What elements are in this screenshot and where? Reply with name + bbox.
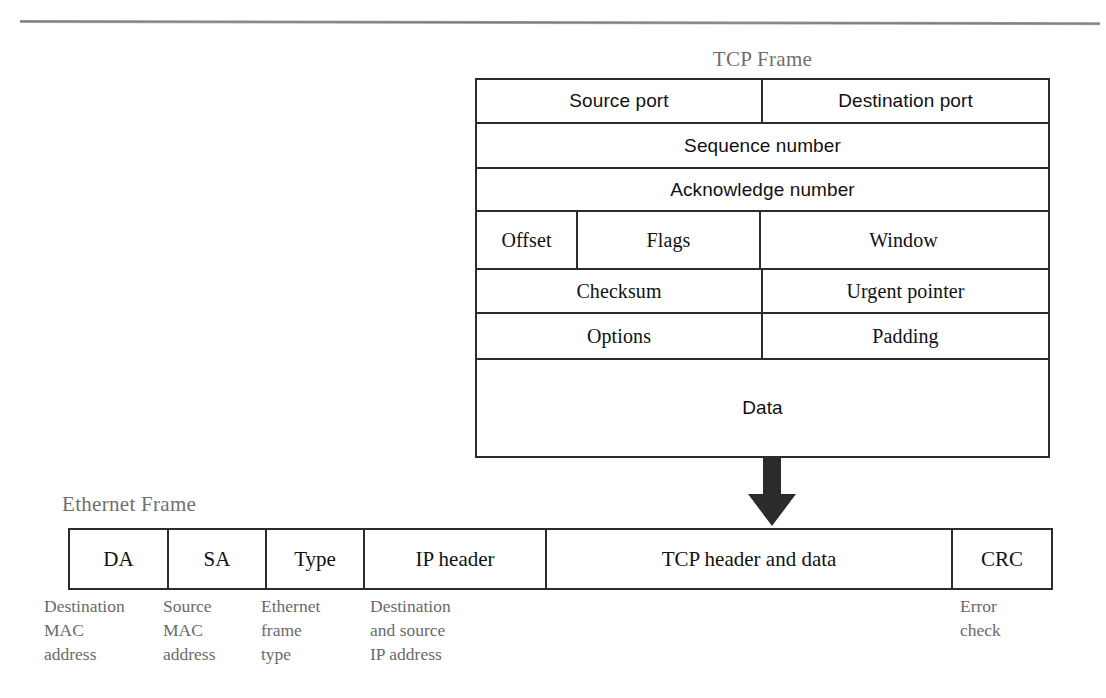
tcp-frame-table: Source port Destination port Sequence nu… [475, 78, 1050, 458]
tcp-row-options-padding: Options Padding [477, 314, 1048, 360]
eth-field-type: Type [265, 530, 363, 588]
tcp-field-sequence-number: Sequence number [477, 124, 1048, 167]
tcp-field-checksum: Checksum [477, 270, 761, 312]
eth-caption-ip-header: Destination and source IP address [370, 594, 520, 666]
tcp-field-data: Data [477, 360, 1048, 456]
tcp-row-sequence-number: Sequence number [477, 124, 1048, 169]
eth-caption-crc: Error check [960, 594, 1056, 642]
eth-field-crc: CRC [951, 530, 1051, 588]
tcp-field-source-port: Source port [477, 80, 761, 122]
tcp-field-options: Options [477, 314, 761, 358]
eth-field-da: DA [70, 530, 167, 588]
tcp-field-acknowledge-number: Acknowledge number [477, 169, 1048, 210]
tcp-frame-title: TCP Frame [475, 47, 1050, 72]
tcp-field-window: Window [759, 212, 1046, 268]
page-top-rule [20, 20, 1100, 25]
eth-caption-da: Destination MAC address [44, 594, 148, 666]
tcp-field-flags: Flags [576, 212, 759, 268]
ethernet-frame-table: DA SA Type IP header TCP header and data… [68, 528, 1053, 590]
down-arrow-icon [742, 458, 802, 528]
ethernet-frame-title: Ethernet Frame [62, 492, 196, 517]
tcp-field-padding: Padding [761, 314, 1048, 358]
tcp-row-checksum-urgent: Checksum Urgent pointer [477, 270, 1048, 314]
tcp-field-urgent-pointer: Urgent pointer [761, 270, 1048, 312]
eth-field-tcp-header-and-data: TCP header and data [545, 530, 951, 588]
tcp-row-ports: Source port Destination port [477, 80, 1048, 124]
tcp-row-acknowledge-number: Acknowledge number [477, 169, 1048, 212]
eth-caption-sa: Source MAC address [163, 594, 255, 666]
eth-field-ip-header: IP header [363, 530, 545, 588]
eth-field-sa: SA [167, 530, 265, 588]
tcp-row-offset-flags-window: Offset Flags Window [477, 212, 1048, 270]
tcp-row-data: Data [477, 360, 1048, 456]
eth-caption-type: Ethernet frame type [261, 594, 353, 666]
tcp-field-destination-port: Destination port [761, 80, 1048, 122]
tcp-field-offset: Offset [477, 212, 576, 268]
